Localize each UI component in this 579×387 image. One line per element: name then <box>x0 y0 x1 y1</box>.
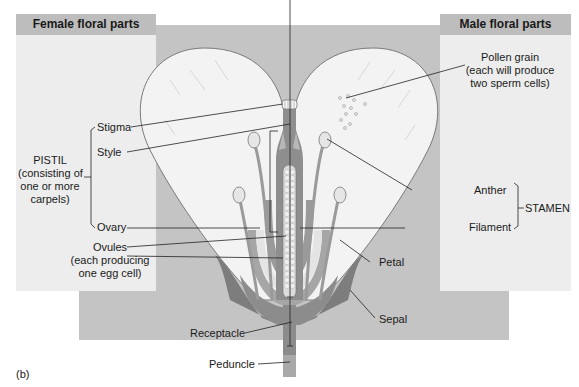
ovules-title: Ovules <box>70 241 150 254</box>
label-stigma: Stigma <box>97 121 131 134</box>
label-petal: Petal <box>379 256 404 269</box>
label-receptacle: Receptacle <box>190 327 245 340</box>
label-ovules: Ovules (each producing one egg cell) <box>70 241 150 280</box>
ovules-desc-2: one egg cell) <box>70 267 150 280</box>
label-ovary: Ovary <box>97 221 126 234</box>
stigma <box>282 100 297 109</box>
label-stamen: STAMEN <box>525 202 570 215</box>
label-style: Style <box>97 146 121 159</box>
label-pistil: PISTIL (consisting of one or more carpel… <box>18 154 82 206</box>
label-anther: Anther <box>474 184 506 197</box>
figure-label: (b) <box>16 368 29 381</box>
label-sepal: Sepal <box>379 313 407 326</box>
pollen-desc-2: two sperm cells) <box>460 77 560 90</box>
label-pollen-grain: Pollen grain (each will produce two sper… <box>460 51 560 90</box>
pistil-desc-1: (consisting of <box>18 167 82 180</box>
pistil-desc-3: carpels) <box>18 193 82 206</box>
pistil-desc-2: one or more <box>18 180 82 193</box>
label-peduncle: Peduncle <box>209 358 255 371</box>
ovules-desc-1: (each producing <box>70 254 150 267</box>
pistil-title: PISTIL <box>18 154 82 167</box>
label-filament: Filament <box>469 221 511 234</box>
pollen-title: Pollen grain <box>460 51 560 64</box>
pollen-desc-1: (each will produce <box>460 64 560 77</box>
